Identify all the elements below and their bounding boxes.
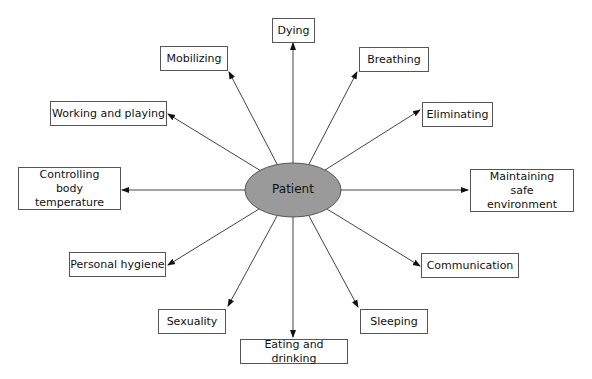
arrow-working bbox=[168, 114, 261, 171]
arrow-mobilizing bbox=[229, 72, 277, 164]
arrow-hygiene bbox=[168, 209, 259, 265]
node-controlling: Controlling body temperature bbox=[18, 167, 121, 210]
node-sexuality: Sexuality bbox=[158, 309, 226, 334]
node-breathing: Breathing bbox=[359, 47, 429, 72]
arrow-sexuality bbox=[228, 216, 277, 306]
node-mobilizing: Mobilizing bbox=[160, 46, 228, 71]
node-sleeping: Sleeping bbox=[360, 309, 428, 334]
arrow-breathing bbox=[309, 72, 357, 164]
node-communication: Communication bbox=[421, 253, 519, 278]
node-eating: Eating and drinking bbox=[240, 339, 348, 364]
arrow-sleeping bbox=[309, 216, 358, 307]
center-label: Patient bbox=[253, 182, 333, 196]
node-maintaining: Maintaining safe environment bbox=[470, 169, 574, 212]
node-working: Working and playing bbox=[50, 101, 167, 126]
arrow-eliminating bbox=[325, 110, 420, 170]
node-hygiene: Personal hygiene bbox=[69, 252, 166, 277]
arrow-communication bbox=[327, 209, 420, 266]
node-eliminating: Eliminating bbox=[422, 102, 493, 127]
node-dying: Dying bbox=[272, 18, 315, 43]
